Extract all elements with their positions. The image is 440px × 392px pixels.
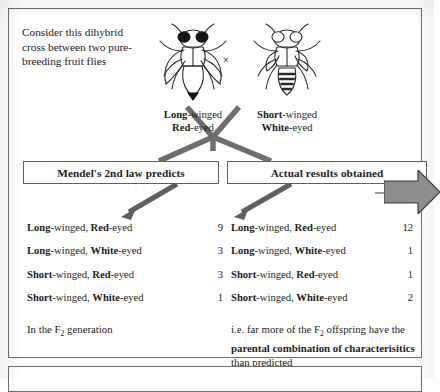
wing-rest: -winged, bbox=[51, 222, 91, 233]
table-row: Short-winged, White-eyed 2 bbox=[231, 292, 413, 303]
figure-frame: Consider this dihybrid cross between two… bbox=[8, 8, 422, 358]
wing-rest: -winged, bbox=[256, 292, 296, 303]
header-label: Mendel's 2nd law predicts bbox=[57, 167, 185, 179]
table-row: Short-winged, Red-eyed 3 bbox=[27, 269, 223, 280]
wing-rest: -winged, bbox=[255, 222, 295, 233]
wing-bold: Short bbox=[27, 269, 52, 280]
eye-rest: -eyed bbox=[322, 245, 346, 256]
eye-bold: White bbox=[92, 292, 120, 303]
fruit-fly-icon bbox=[244, 21, 330, 107]
wing-bold: Long bbox=[231, 245, 255, 256]
wing-trait-rest: -winged bbox=[282, 109, 317, 120]
wing-trait-bold: Short bbox=[257, 109, 282, 120]
cross-symbol: × bbox=[217, 53, 235, 68]
wing-rest: -winged, bbox=[255, 245, 295, 256]
eye-bold: Red bbox=[296, 269, 314, 280]
table-row: Long-winged, Red-eyed 9 bbox=[27, 222, 223, 233]
count-value: 12 bbox=[391, 222, 413, 233]
eye-trait-bold: White bbox=[261, 122, 289, 133]
count-value: 2 bbox=[391, 292, 413, 303]
predicted-results-table: Long-winged, Red-eyed 9 Long-winged, Whi… bbox=[27, 222, 223, 316]
eye-rest: -eyed bbox=[118, 245, 142, 256]
eye-trait-rest: -eyed bbox=[190, 122, 214, 133]
note-line2-emphasis: parental combination of characterisitics bbox=[231, 342, 415, 354]
count-value: 1 bbox=[197, 292, 223, 303]
wing-trait-rest: -winged bbox=[187, 109, 222, 120]
eye-rest: -eyed bbox=[313, 222, 337, 233]
parent-fly-label: Short-winged White-eyed bbox=[239, 108, 335, 134]
count-value: 3 bbox=[197, 245, 223, 256]
intro-text: Consider this dihybrid cross between two… bbox=[22, 25, 140, 69]
eye-trait-bold: Red bbox=[172, 122, 190, 133]
predicted-note: In the F2 generation bbox=[27, 322, 207, 341]
table-row: Long-winged, Red-eyed 12 bbox=[231, 222, 413, 233]
header-label: Actual results obtained bbox=[271, 167, 384, 179]
eye-bold: White bbox=[296, 292, 324, 303]
count-value: 3 bbox=[197, 269, 223, 280]
wing-bold: Long bbox=[27, 245, 51, 256]
table-row: Long-winged, White-eyed 1 bbox=[231, 245, 413, 256]
eye-rest: -eyed bbox=[109, 222, 133, 233]
wing-trait-bold: Long bbox=[164, 109, 188, 120]
count-value: 9 bbox=[197, 222, 223, 233]
next-figure-frame bbox=[8, 366, 422, 392]
actual-note: i.e. far more of the F2 offspring have t… bbox=[231, 322, 417, 369]
why-callout-arrow bbox=[384, 170, 440, 214]
note-line1-suffix: offspring have the bbox=[324, 323, 405, 335]
actual-results-table: Long-winged, Red-eyed 12 Long-winged, Wh… bbox=[231, 222, 413, 316]
wing-bold: Short bbox=[231, 292, 256, 303]
wing-bold: Long bbox=[27, 222, 51, 233]
eye-bold: Red bbox=[91, 222, 109, 233]
table-row: Long-winged, White-eyed 3 bbox=[27, 245, 223, 256]
wing-rest: -winged, bbox=[256, 269, 296, 280]
table-row: Short-winged, White-eyed 1 bbox=[27, 292, 223, 303]
parent-fly-short-winged-white-eyed: Short-winged White-eyed bbox=[239, 21, 335, 134]
eye-bold: White bbox=[91, 245, 119, 256]
eye-rest: -eyed bbox=[315, 269, 339, 280]
header-box-predicted: Mendel's 2nd law predicts bbox=[23, 161, 219, 184]
wing-rest: -winged, bbox=[52, 269, 92, 280]
eye-bold: White bbox=[295, 245, 323, 256]
note-suffix: generation bbox=[64, 323, 112, 335]
eye-bold: Red bbox=[295, 222, 313, 233]
eye-rest: -eyed bbox=[120, 292, 144, 303]
table-row: Short-winged, Red-eyed 1 bbox=[231, 269, 413, 280]
wing-bold: Short bbox=[27, 292, 52, 303]
count-value: 1 bbox=[391, 245, 413, 256]
wing-rest: -winged, bbox=[52, 292, 92, 303]
eye-trait-rest: -eyed bbox=[289, 122, 313, 133]
parent-fly-long-winged-red-eyed: Long-winged Red-eyed bbox=[145, 21, 241, 134]
eye-rest: -eyed bbox=[324, 292, 348, 303]
eye-rest: -eyed bbox=[111, 269, 135, 280]
parent-fly-label: Long-winged Red-eyed bbox=[145, 108, 241, 134]
wing-bold: Short bbox=[231, 269, 256, 280]
eye-bold: Red bbox=[92, 269, 110, 280]
wing-rest: -winged, bbox=[51, 245, 91, 256]
note-line1-prefix: i.e. far more of the F bbox=[231, 323, 320, 335]
wing-bold: Long bbox=[231, 222, 255, 233]
count-value: 1 bbox=[391, 269, 413, 280]
note-prefix: In the F bbox=[27, 323, 61, 335]
